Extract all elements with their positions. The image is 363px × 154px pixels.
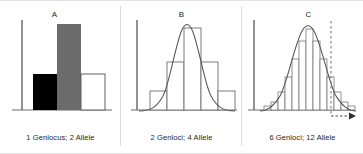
panel-b-plot [121, 18, 242, 126]
panel-c-threshold-arrow-head [349, 113, 356, 120]
panel-b-svg [121, 18, 242, 126]
panel-c-bar-6 [299, 41, 306, 110]
panel-c-bar-4 [285, 77, 292, 110]
panel-b: B 2 Genloci; 4 Allele [121, 4, 242, 150]
panel-c-plot [242, 18, 363, 126]
panel-a-bar-2 [57, 24, 81, 110]
panel-a: A 1 Genlocus; 2 Allele [0, 4, 121, 150]
figure-container: A 1 Genlocus; 2 Allele B [0, 0, 363, 154]
panel-c-bar-3 [278, 92, 285, 110]
panel-c-bar-5 [292, 59, 299, 110]
panel-b-bar-2 [167, 62, 184, 110]
panel-c-svg [242, 18, 363, 126]
panel-a-svg [0, 18, 121, 126]
figure-bottom-border [0, 153, 363, 154]
panel-row: A 1 Genlocus; 2 Allele B [0, 4, 363, 150]
panel-a-bar-3 [81, 74, 105, 110]
panel-a-caption: 1 Genlocus; 2 Allele [0, 133, 121, 142]
panel-a-plot [0, 18, 121, 126]
panel-a-bar-1 [33, 74, 57, 110]
panel-c-bar-7 [306, 29, 313, 110]
panel-c: C [242, 4, 363, 150]
panel-b-bar-3 [184, 28, 201, 110]
panel-c-caption: 6 Genloci; 12 Allele [242, 133, 363, 142]
figure-top-border [0, 0, 363, 1]
panel-c-bar-8 [313, 41, 320, 110]
panel-b-caption: 2 Genloci; 4 Allele [121, 133, 242, 142]
